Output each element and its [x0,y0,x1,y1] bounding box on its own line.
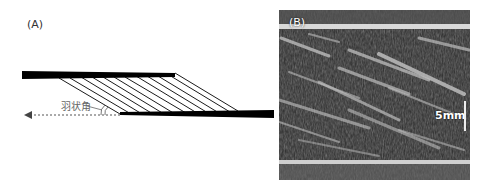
lower-aponeurosis [120,110,274,118]
panel-b-label: (B) [289,16,305,29]
pennation-angle-label: 羽状角 [61,98,91,113]
upper-aponeurosis [22,71,175,79]
panel-a-diagram: (A) 羽状角 [0,0,280,188]
ultrasound-image [279,10,470,180]
lower-aponeurosis-echo [279,160,470,164]
upper-aponeurosis-echo [279,24,470,29]
pennation-diagram [0,0,280,188]
scale-label: 5mm [435,109,466,122]
scale-bar [464,101,466,131]
angle-arc [105,107,108,115]
panel-b-ultrasound: (B) 5mm [279,10,470,180]
arrow-head-icon [24,111,32,119]
